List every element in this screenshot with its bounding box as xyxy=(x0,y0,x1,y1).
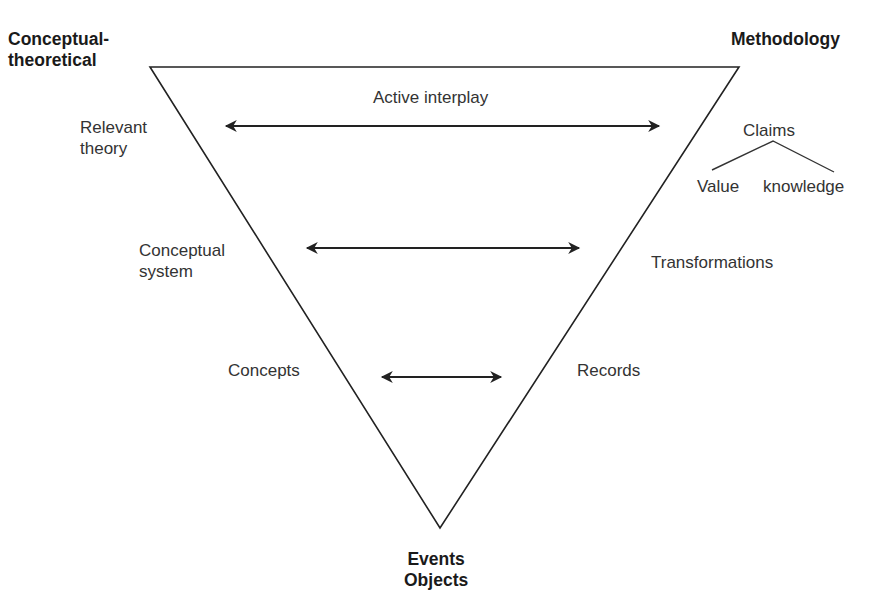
corner-conceptual-theoretical: Conceptual- theoretical xyxy=(8,29,109,71)
label-value: Value xyxy=(697,176,739,197)
label-line: Relevant xyxy=(80,117,147,138)
corner-label-line: Objects xyxy=(404,570,468,591)
diagram-canvas: Conceptual- theoretical Methodology Even… xyxy=(0,0,887,613)
corner-label-line: Conceptual- xyxy=(8,29,109,50)
label-concepts: Concepts xyxy=(228,360,300,381)
label-line: system xyxy=(139,261,225,282)
inverted-triangle xyxy=(150,67,739,528)
label-records: Records xyxy=(577,360,640,381)
label-active-interplay: Active interplay xyxy=(373,87,488,108)
label-transformations: Transformations xyxy=(651,252,773,273)
corner-methodology: Methodology xyxy=(731,29,840,50)
label-line: Conceptual xyxy=(139,240,225,261)
label-claims: Claims xyxy=(743,120,795,141)
corner-events-objects: Events Objects xyxy=(404,549,468,591)
claims-branch-lines xyxy=(712,141,834,172)
label-conceptual-system: Conceptual system xyxy=(139,240,225,282)
corner-label-line: Events xyxy=(404,549,468,570)
corner-label-line: theoretical xyxy=(8,50,109,71)
label-line: theory xyxy=(80,138,147,159)
label-knowledge: knowledge xyxy=(763,176,844,197)
label-relevant-theory: Relevant theory xyxy=(80,117,147,159)
